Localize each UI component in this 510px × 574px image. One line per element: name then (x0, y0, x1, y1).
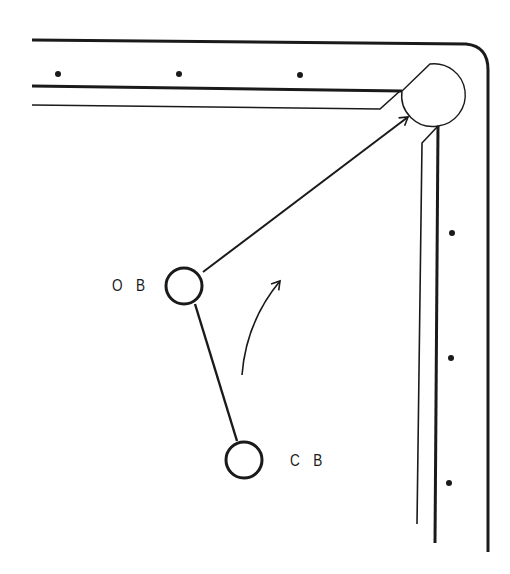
cue-path-line (195, 304, 237, 441)
diamond-marker (448, 355, 454, 361)
diamond-marker (449, 230, 455, 236)
object-ball-path-arrow (203, 117, 408, 272)
billiards-table-diagram (0, 0, 510, 574)
right-rail-line (435, 126, 438, 543)
diamond-marker (55, 71, 61, 77)
cue-ball (226, 442, 262, 478)
curved-direction-arrow (242, 281, 280, 375)
object-ball (166, 268, 202, 304)
diamond-marker (446, 480, 452, 486)
top-cushion-line (32, 91, 400, 109)
top-rail-line (32, 86, 402, 91)
diamond-marker (297, 72, 303, 78)
corner-pocket (402, 64, 466, 127)
diamond-marker (176, 71, 182, 77)
cue-ball-label: C B (290, 451, 327, 471)
object-ball-label: O B (112, 276, 150, 296)
